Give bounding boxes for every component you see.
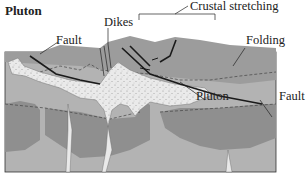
label-fault-right: Fault xyxy=(279,89,305,104)
label-folding: Folding xyxy=(246,33,285,48)
label-crustal-stretching: Crustal stretching xyxy=(190,0,279,14)
geologic-cross-section xyxy=(0,0,308,178)
label-dikes: Dikes xyxy=(104,15,133,30)
label-pluton: Pluton xyxy=(196,89,229,104)
label-fault-left: Fault xyxy=(56,33,82,48)
